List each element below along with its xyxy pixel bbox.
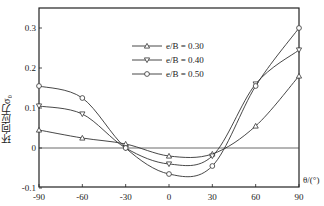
series-2 — [36, 48, 301, 167]
legend-label: e/B = 0.30 — [166, 41, 204, 51]
y-tick-label: 0 — [32, 143, 37, 153]
x-tick-label: -90 — [33, 192, 45, 202]
y-tick-label: -0.1 — [22, 183, 36, 193]
legend-item: e/B = 0.40 — [132, 55, 204, 65]
x-tick-label: -30 — [120, 192, 132, 202]
legend-item: e/B = 0.50 — [132, 69, 204, 79]
plot-frame — [39, 8, 299, 187]
series-1 — [36, 73, 301, 158]
x-tick-label: 90 — [295, 192, 305, 202]
legend-label: e/B = 0.50 — [166, 69, 204, 79]
x-tick-label: 30 — [208, 192, 218, 202]
x-axis-label: θ/(°) — [303, 175, 319, 185]
y-axis-label: 环向应力σ₀ — [2, 95, 16, 144]
chart: -90-60-300306090-0.100.10.20.3θ/(°) e/B … — [0, 0, 324, 206]
legend: e/B = 0.30e/B = 0.40e/B = 0.50 — [132, 41, 204, 79]
legend-label: e/B = 0.40 — [166, 55, 204, 65]
x-tick-label: 0 — [167, 192, 172, 202]
legend-item: e/B = 0.30 — [132, 41, 204, 51]
y-tick-label: 0.1 — [25, 103, 36, 113]
x-tick-label: 60 — [251, 192, 261, 202]
x-tick-label: -60 — [76, 192, 88, 202]
y-tick-label: 0.2 — [25, 63, 36, 73]
y-tick-label: 0.3 — [25, 23, 37, 33]
